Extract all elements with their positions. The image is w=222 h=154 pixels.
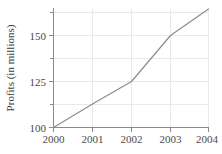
chart-container: 100 125 150 2000 2001 2002 2003 2004 Pro… (0, 0, 222, 154)
x-tick-label-2000: 2000 (43, 133, 66, 145)
profits-line-chart: 100 125 150 2000 2001 2002 2003 2004 Pro… (0, 0, 222, 154)
x-tick-label-2004: 2004 (196, 133, 219, 145)
y-tick-label-150: 150 (30, 30, 47, 42)
x-tick-label-2002: 2002 (121, 133, 143, 145)
x-tick-label-2003: 2003 (160, 133, 183, 145)
y-tick-label-125: 125 (30, 76, 47, 88)
x-tick-label-2001: 2001 (82, 133, 104, 145)
y-axis-title: Profits (in millions) (4, 24, 17, 111)
y-tick-label-100: 100 (30, 122, 47, 134)
